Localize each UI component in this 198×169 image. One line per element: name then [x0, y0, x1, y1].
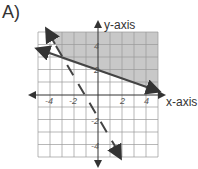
svg-text:-4: -4 [91, 141, 99, 151]
svg-text:-2: -2 [91, 116, 99, 126]
y-axis-label: y-axis [104, 18, 135, 32]
svg-text:-4: -4 [45, 96, 53, 106]
x-axis-label: x-axis [166, 95, 197, 109]
svg-text:-2: -2 [69, 96, 77, 106]
svg-text:4: 4 [144, 96, 149, 106]
svg-text:4: 4 [94, 41, 99, 51]
graph: -4-224 42-2-4 y-axis x-axis [0, 0, 198, 169]
svg-text:2: 2 [119, 96, 125, 106]
